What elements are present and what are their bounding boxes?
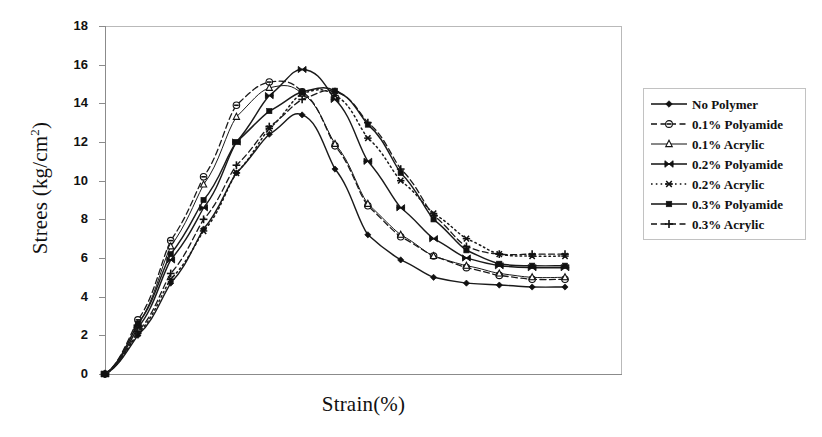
y-axis-title-exponent: 2: [27, 129, 42, 136]
y-axis-title-tail: ): [28, 122, 52, 129]
legend-key: [649, 176, 689, 192]
page-cut-caption: [6, 431, 9, 437]
y-tick-label-text: 0: [60, 367, 88, 380]
legend: No Polymer0.1% Polyamide0.1% Acrylic0.2%…: [643, 88, 806, 240]
legend-key: [649, 116, 689, 132]
legend-item-0-2-polyamide[interactable]: 0.2% Polyamide: [649, 154, 801, 174]
legend-label: 0.3% Polyamide: [692, 198, 783, 211]
y-tick-label: 16: [60, 58, 94, 71]
legend-key: [649, 156, 689, 172]
square-filled-icon: [666, 201, 672, 207]
legend-item-0-1-polyamide[interactable]: 0.1% Polyamide: [649, 114, 801, 134]
legend-item-0-1-acrylic[interactable]: 0.1% Acrylic: [649, 134, 801, 154]
y-tick-label: 18: [60, 19, 94, 32]
y-axis-title: Strees (kg/cm2): [27, 63, 53, 313]
legend-item-no-polymer[interactable]: No Polymer: [649, 94, 801, 114]
y-tick-mark: [99, 335, 105, 336]
y-tick-label-text: 16: [60, 58, 88, 71]
diamond-filled-icon: [666, 101, 673, 108]
y-tick-label: 10: [60, 174, 94, 187]
y-tick-mark: [99, 219, 105, 220]
y-tick-label-text: 18: [60, 19, 88, 32]
y-tick-mark: [99, 26, 105, 27]
asterisk-icon: [665, 181, 673, 187]
y-tick-mark: [99, 103, 105, 104]
y-tick-label-text: 10: [60, 174, 88, 187]
y-axis-line: [105, 26, 106, 375]
plus-icon: [665, 220, 673, 228]
chart-page: 181614121086420 Strees (kg/cm2) Strain(%…: [0, 0, 822, 437]
legend-label: 0.2% Acrylic: [692, 178, 764, 191]
y-tick-mark: [99, 181, 105, 182]
y-tick-label: 14: [60, 96, 94, 109]
y-tick-mark: [99, 65, 105, 66]
legend-label: No Polymer: [692, 98, 758, 111]
legend-label: 0.1% Acrylic: [692, 138, 764, 151]
x-axis-title: Strain(%): [105, 392, 622, 417]
bowtie-x-icon: [665, 161, 674, 168]
y-tick-label-text: 6: [60, 251, 88, 264]
y-tick-label: 8: [60, 212, 94, 225]
y-tick-mark: [99, 297, 105, 298]
legend-key: [649, 196, 689, 212]
legend-key: [649, 96, 689, 112]
legend-label: 0.2% Polyamide: [692, 158, 783, 171]
y-tick-label: 6: [60, 251, 94, 264]
y-axis-title-text: Strees (kg/cm: [28, 136, 52, 255]
legend-label: 0.1% Polyamide: [692, 118, 783, 131]
y-tick-mark: [99, 258, 105, 259]
y-tick-mark: [99, 374, 105, 375]
y-tick-label: 2: [60, 328, 94, 341]
legend-item-0-3-acrylic[interactable]: 0.3% Acrylic: [649, 214, 801, 234]
y-tick-label-text: 2: [60, 328, 88, 341]
triangle-icon: [666, 140, 673, 146]
y-tick-label-text: 4: [60, 290, 88, 303]
legend-key: [649, 136, 689, 152]
y-tick-mark: [99, 142, 105, 143]
y-tick-label-text: 14: [60, 96, 88, 109]
legend-item-0-2-acrylic[interactable]: 0.2% Acrylic: [649, 174, 801, 194]
legend-label: 0.3% Acrylic: [692, 218, 764, 231]
y-tick-label-text: 12: [60, 135, 88, 148]
legend-item-0-3-polyamide[interactable]: 0.3% Polyamide: [649, 194, 801, 214]
legend-key: [649, 216, 689, 232]
y-tick-label: 12: [60, 135, 94, 148]
y-tick-label-text: 8: [60, 212, 88, 225]
y-tick-label: 0: [60, 367, 94, 380]
plot-area: [105, 26, 622, 375]
x-axis-line: [105, 374, 622, 375]
y-tick-label: 4: [60, 290, 94, 303]
circle-dot-icon: [666, 121, 673, 128]
